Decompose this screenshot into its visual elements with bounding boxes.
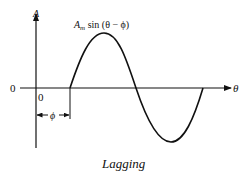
y-axis-label: A [32,8,40,19]
caption: Lagging [101,156,146,171]
origin-y-label: 0 [10,82,16,94]
curve-label: Am sin (θ − ϕ) [73,19,129,32]
origin-x-label: 0 [38,91,44,103]
phase-label: ϕ [50,110,55,121]
x-axis-label: θ [233,82,239,94]
lagging-sine-diagram: A θ 0 0 ϕ Am sin (θ − ϕ) Lagging [0,0,247,176]
